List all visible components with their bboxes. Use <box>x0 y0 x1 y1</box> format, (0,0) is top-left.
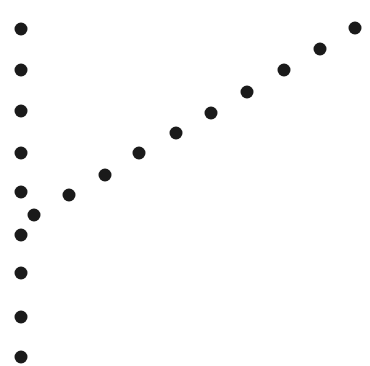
data-point-vertical-column-8 <box>15 351 28 364</box>
data-point-vertical-column-1 <box>15 64 28 77</box>
data-point-vertical-column-6 <box>15 267 28 280</box>
data-point-vertical-column-4 <box>15 186 28 199</box>
data-point-vertical-column-2 <box>15 105 28 118</box>
plot-area <box>0 0 370 366</box>
data-point-diagonal-run-3 <box>133 147 146 160</box>
data-point-diagonal-run-0 <box>28 209 41 222</box>
data-point-diagonal-run-4 <box>170 127 183 140</box>
data-point-vertical-column-0 <box>15 23 28 36</box>
data-point-diagonal-run-1 <box>63 189 76 202</box>
data-point-diagonal-run-9 <box>349 22 362 35</box>
data-point-diagonal-run-5 <box>205 107 218 120</box>
data-point-diagonal-run-8 <box>314 43 327 56</box>
data-point-diagonal-run-6 <box>241 86 254 99</box>
scatter-plot-figure <box>0 0 370 366</box>
data-point-vertical-column-5 <box>15 229 28 242</box>
data-point-vertical-column-7 <box>15 311 28 324</box>
data-point-vertical-column-3 <box>15 147 28 160</box>
data-point-diagonal-run-2 <box>99 169 112 182</box>
data-point-diagonal-run-7 <box>278 64 291 77</box>
